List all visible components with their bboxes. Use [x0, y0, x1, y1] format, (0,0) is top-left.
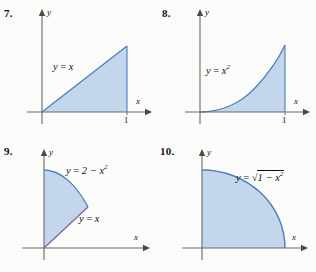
equation-label-9-parabola: y = 2 − x2 [66, 164, 108, 176]
x-axis-label-7: x [136, 96, 140, 106]
y-axis-label-10: y [207, 147, 211, 157]
x-tick-label-8: 1 [282, 115, 286, 125]
shaded-region-8 [200, 45, 285, 112]
problem-panel-7: 7. x y 1 y = x [0, 0, 158, 136]
x-axis-arrow-8 [303, 109, 310, 115]
radicand: 1 − x2 [257, 170, 285, 183]
figure-10 [158, 136, 316, 272]
x-axis-arrow-7 [145, 109, 152, 115]
worksheet-page: 7. x y 1 y = x 8. [0, 0, 316, 272]
y-axis-arrow-9 [41, 149, 47, 156]
y-axis-label-7: y [47, 7, 51, 17]
equation-label-10: y = √1 − x2 [236, 170, 284, 183]
x-tick-label-7: 1 [124, 115, 128, 125]
x-axis-arrow-9 [143, 245, 150, 251]
x-axis-label-9: x [134, 232, 138, 242]
figure-8 [158, 0, 316, 136]
problem-panel-10: 10. x y y = √1 − x2 [158, 136, 316, 272]
x-axis-label-8: x [294, 96, 298, 106]
y-axis-arrow-8 [197, 9, 203, 16]
figure-7 [0, 0, 158, 136]
figure-9 [0, 136, 158, 272]
y-axis-arrow-10 [199, 149, 205, 156]
y-axis-arrow-7 [39, 9, 45, 16]
problem-panel-8: 8. x y 1 y = x2 [158, 0, 316, 136]
equation-label-7: y = x [53, 62, 74, 73]
y-axis-label-9: y [49, 147, 53, 157]
shaded-region-9 [44, 170, 88, 248]
equation-label-8: y = x2 [206, 64, 230, 76]
x-axis-arrow-10 [301, 245, 308, 251]
equation-label-9-line: y = x [79, 214, 100, 225]
problem-panel-9: 9. x y y = 2 − x2 y = x [0, 136, 158, 272]
y-axis-label-8: y [205, 7, 209, 17]
x-axis-label-10: x [292, 232, 296, 242]
